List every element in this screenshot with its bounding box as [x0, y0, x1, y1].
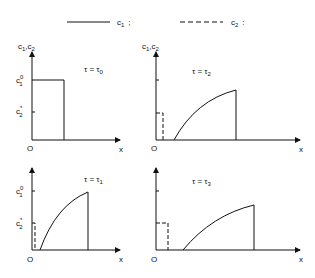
origin-label: O [27, 255, 33, 264]
panel-tau0: c1,c2 O x c01 c*2 τ = τ0 [16, 42, 123, 154]
panel-title: τ = τ1 [84, 175, 103, 185]
c1-initial-label: c01 [16, 74, 24, 87]
c1-initial-label: c01 [16, 185, 24, 198]
origin-label: O [27, 144, 33, 153]
c1-profile [174, 90, 236, 140]
c2-star-label: c*2 [16, 105, 23, 118]
panel-tau2: c1,c2 O x τ = τ2 [142, 42, 303, 154]
legend: c1; c2: [67, 18, 245, 28]
y-axis-label: c1,c2 [142, 42, 160, 52]
panel-title: τ = τ0 [84, 65, 103, 75]
panel-title: τ = τ2 [192, 67, 211, 77]
legend-c1-label: c1; [117, 18, 131, 28]
panel-tau1: O x c01 c*2 τ = τ1 [16, 168, 123, 264]
c2-profile [156, 113, 163, 140]
legend-c2-label: c2: [231, 18, 245, 28]
c1-profile [32, 80, 64, 140]
c1-profile [183, 205, 254, 250]
y-axis-label: c1,c2 [18, 42, 36, 52]
x-axis-label: x [299, 255, 303, 264]
x-axis-label: x [299, 145, 303, 154]
x-axis-label: x [119, 255, 123, 264]
panel-tau3: O x τ = τ3 [151, 168, 303, 264]
origin-label: O [151, 144, 157, 153]
panel-title: τ = τ3 [192, 177, 211, 187]
concentration-profiles-diagram: c1; c2: c1,c2 O x c01 c*2 τ = τ0 c1,c2 O… [0, 0, 315, 278]
c1-profile [40, 192, 88, 250]
c2-star-label: c*2 [16, 217, 23, 230]
origin-label: O [151, 255, 157, 264]
c2-profile [156, 223, 168, 250]
x-axis-label: x [119, 145, 123, 154]
